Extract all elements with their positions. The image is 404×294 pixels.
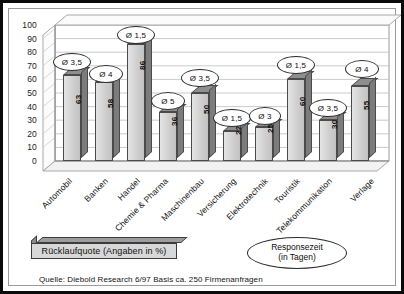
bar-banken[interactable]: 58 — [95, 9, 113, 161]
callout-chemie-pharma: Ø 5 — [151, 92, 185, 110]
bar-verlage[interactable]: 55 — [351, 9, 369, 161]
y-tick: 50 — [13, 88, 37, 98]
bar-value-label: 86 — [138, 61, 147, 71]
callout-elektrotechnik: Ø 3 — [249, 107, 281, 125]
y-tick: 0 — [13, 156, 37, 166]
bar-front — [287, 79, 305, 161]
bar-side-face — [305, 70, 312, 158]
bar-value-label: 60 — [298, 97, 307, 107]
y-tick: 70 — [13, 61, 37, 71]
bar-side-face — [177, 103, 184, 158]
y-tick: 90 — [13, 34, 37, 44]
callout-maschinenbau: Ø 3,5 — [181, 69, 219, 87]
bar-front — [351, 86, 369, 161]
callout-touristik: Ø 1,5 — [277, 56, 315, 74]
bar-value-label: 25 — [266, 124, 275, 134]
bar-versicherung[interactable]: 22 — [223, 9, 241, 161]
source-note: Quelle: Diebold Research 6/97 Basis ca. … — [39, 275, 263, 284]
y-tick: 100 — [13, 20, 37, 30]
bar-chemie-pharma[interactable]: 36 — [159, 9, 177, 161]
bar-front — [63, 75, 81, 161]
bar-elektrotechnik[interactable]: 25 — [255, 9, 273, 161]
bar-value-label: 58 — [106, 99, 115, 109]
y-tick: 20 — [13, 129, 37, 139]
bar-value-label: 30 — [330, 120, 339, 130]
chart-inner-frame: 100 90 80 70 60 50 40 30 20 10 0 63 — [8, 8, 396, 286]
bar-value-label: 55 — [362, 101, 371, 111]
bar-front — [223, 131, 241, 161]
callout-handel: Ø 1,5 — [117, 26, 155, 44]
bar-side-face — [113, 73, 120, 158]
bar-value-label: 50 — [202, 105, 211, 115]
y-tick: 30 — [13, 115, 37, 125]
y-tick: 10 — [13, 142, 37, 152]
bar-touristik[interactable]: 60 — [287, 9, 305, 161]
legend-callout-label-line2: (in Tagen) — [278, 253, 316, 263]
y-tick: 40 — [13, 102, 37, 112]
y-tick: 80 — [13, 47, 37, 57]
bar-telekommunikation[interactable]: 30 — [319, 9, 337, 161]
bar-side-face — [145, 35, 152, 158]
callout-versicherung: Ø 1,5 — [213, 109, 251, 127]
bar-value-label: 36 — [170, 117, 179, 127]
callout-banken: Ø 4 — [89, 65, 123, 83]
y-tick: 60 — [13, 74, 37, 84]
bar-front — [95, 82, 113, 161]
chart-frame: 100 90 80 70 60 50 40 30 20 10 0 63 — [0, 0, 404, 294]
plot-area: 100 90 80 70 60 50 40 30 20 10 0 63 — [9, 9, 403, 224]
bar-side-face — [81, 66, 88, 158]
callout-telekommunikation: Ø 3,5 — [309, 99, 347, 117]
bar-value-label: 63 — [74, 95, 83, 105]
bar-side-face — [369, 77, 376, 158]
legend-bar-label: Rücklaufquote (Angaben in %) — [31, 243, 177, 259]
callout-verlage: Ø 4 — [345, 60, 379, 78]
bar-side-face — [337, 111, 344, 158]
bar-automobil[interactable]: 63 — [63, 9, 81, 161]
legend-callout-series: Responsezeit (in Tagen) — [247, 237, 347, 269]
callout-automobil: Ø 3,5 — [53, 53, 91, 71]
bar-value-label: 22 — [234, 126, 243, 136]
